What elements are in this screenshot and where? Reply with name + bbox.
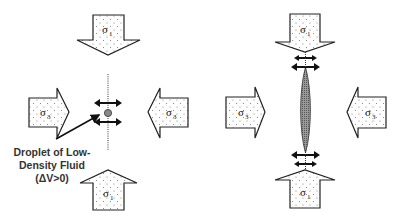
sigma-label: σ (40, 106, 46, 118)
sigma-subscript: 3 (245, 113, 249, 121)
stress-arrow-bottom: σ 1 (80, 170, 137, 210)
sigma-subscript: 3 (372, 113, 376, 121)
droplet-annotation: Droplet of Low- Density Fluid (ΔV>0) (14, 146, 91, 184)
stress-arrow-right: σ 3 (148, 88, 188, 138)
annotation-line-1: Droplet of Low- (14, 146, 91, 158)
sigma-label: σ (166, 106, 172, 118)
sigma-subscript: 1 (110, 194, 114, 202)
sigma-label: σ (102, 23, 108, 35)
sigma-subscript: 3 (47, 113, 51, 121)
sigma-label: σ (103, 187, 109, 199)
elongated-crack (301, 67, 311, 153)
sigma-label: σ (300, 186, 306, 198)
annotation-line-2: Density Fluid (19, 159, 85, 171)
stress-arrow-left: σ 3 (226, 87, 265, 138)
stress-arrow-bottom: σ 1 (275, 170, 335, 208)
sigma-label: σ (238, 106, 244, 118)
diagram-canvas: σ 1 σ 1 σ 3 σ 3 (0, 0, 400, 217)
sigma-label: σ (300, 23, 306, 35)
panel-crack: σ 1 σ 1 σ 3 σ 3 (226, 14, 386, 208)
stress-arrow-right: σ 3 (347, 87, 386, 138)
stress-arrow-left: σ 3 (29, 88, 69, 138)
panel-droplet: σ 1 σ 1 σ 3 σ 3 (14, 15, 189, 210)
sigma-subscript: 3 (173, 113, 177, 121)
annotation-line-3: (ΔV>0) (35, 172, 69, 184)
sigma-subscript: 1 (307, 193, 311, 201)
droplet (104, 109, 111, 116)
stress-arrow-top: σ 1 (275, 14, 335, 52)
sigma-subscript: 1 (109, 30, 113, 38)
sigma-subscript: 1 (307, 30, 311, 38)
stress-arrow-top: σ 1 (77, 15, 140, 55)
sigma-label: σ (365, 106, 371, 118)
